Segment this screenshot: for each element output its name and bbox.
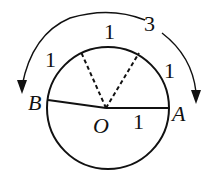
circle-arc-diagram: 3 1 1 1 1 B A O: [0, 0, 205, 181]
arc-top-label: 1: [104, 19, 115, 44]
radius-OB: [48, 100, 106, 108]
arrowhead-left-icon: [17, 80, 27, 94]
point-A-label: A: [170, 101, 186, 126]
dashed-radius-left: [81, 52, 106, 108]
arrowhead-right-icon: [191, 90, 201, 104]
arc-right-label: 1: [164, 58, 175, 83]
total-arc-label: 3: [144, 11, 155, 36]
point-B-label: B: [28, 90, 41, 115]
point-O-label: O: [93, 113, 109, 138]
arc-left-label: 1: [45, 47, 56, 72]
dashed-radius-right: [106, 53, 139, 108]
radius-OA-label: 1: [133, 109, 144, 134]
